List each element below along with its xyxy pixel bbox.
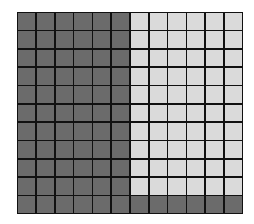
shaded-cell <box>112 160 129 177</box>
unshaded-cell <box>187 178 204 195</box>
shaded-cell <box>225 196 242 213</box>
unshaded-cell <box>150 31 167 48</box>
unshaded-cell <box>187 50 204 67</box>
unshaded-cell <box>131 178 148 195</box>
unshaded-cell <box>225 68 242 85</box>
unshaded-cell <box>131 160 148 177</box>
shaded-cell <box>56 31 73 48</box>
unshaded-cell <box>168 105 185 122</box>
shaded-cell <box>93 160 110 177</box>
shaded-cell <box>18 160 35 177</box>
unshaded-cell <box>187 141 204 158</box>
shaded-cell <box>93 86 110 103</box>
shaded-cell <box>112 196 129 213</box>
unshaded-cell <box>131 68 148 85</box>
shaded-grid <box>17 12 243 214</box>
shaded-cell <box>56 86 73 103</box>
shaded-cell <box>18 13 35 30</box>
unshaded-cell <box>131 123 148 140</box>
shaded-cell <box>150 196 167 213</box>
shaded-cell <box>112 105 129 122</box>
unshaded-cell <box>206 68 223 85</box>
shaded-cell <box>18 50 35 67</box>
unshaded-cell <box>225 160 242 177</box>
shaded-cell <box>74 105 91 122</box>
unshaded-cell <box>131 141 148 158</box>
shaded-cell <box>18 105 35 122</box>
unshaded-cell <box>206 178 223 195</box>
unshaded-cell <box>168 86 185 103</box>
unshaded-cell <box>168 68 185 85</box>
shaded-cell <box>37 68 54 85</box>
unshaded-cell <box>168 50 185 67</box>
shaded-cell <box>131 196 148 213</box>
shaded-cell <box>37 86 54 103</box>
unshaded-cell <box>150 123 167 140</box>
shaded-cell <box>18 141 35 158</box>
unshaded-cell <box>150 178 167 195</box>
unshaded-cell <box>150 105 167 122</box>
unshaded-cell <box>168 31 185 48</box>
unshaded-cell <box>150 141 167 158</box>
unshaded-cell <box>168 13 185 30</box>
shaded-cell <box>168 196 185 213</box>
shaded-cell <box>18 123 35 140</box>
unshaded-cell <box>206 160 223 177</box>
shaded-cell <box>56 50 73 67</box>
unshaded-cell <box>206 13 223 30</box>
shaded-cell <box>37 141 54 158</box>
shaded-cell <box>74 50 91 67</box>
shaded-cell <box>112 68 129 85</box>
unshaded-cell <box>150 13 167 30</box>
shaded-cell <box>18 196 35 213</box>
shaded-cell <box>56 141 73 158</box>
shaded-cell <box>112 50 129 67</box>
shaded-cell <box>112 31 129 48</box>
shaded-cell <box>18 86 35 103</box>
unshaded-cell <box>206 86 223 103</box>
shaded-cell <box>56 13 73 30</box>
shaded-cell <box>74 31 91 48</box>
unshaded-cell <box>206 31 223 48</box>
shaded-cell <box>93 50 110 67</box>
shaded-cell <box>37 178 54 195</box>
shaded-cell <box>112 13 129 30</box>
shaded-cell <box>93 13 110 30</box>
unshaded-cell <box>168 178 185 195</box>
shaded-cell <box>56 178 73 195</box>
unshaded-cell <box>150 160 167 177</box>
unshaded-cell <box>187 68 204 85</box>
shaded-cell <box>74 160 91 177</box>
shaded-cell <box>112 141 129 158</box>
shaded-cell <box>74 86 91 103</box>
shaded-cell <box>93 31 110 48</box>
shaded-cell <box>37 31 54 48</box>
shaded-cell <box>37 160 54 177</box>
shaded-cell <box>37 13 54 30</box>
shaded-cell <box>74 196 91 213</box>
shaded-cell <box>37 123 54 140</box>
unshaded-cell <box>206 141 223 158</box>
shaded-cell <box>18 31 35 48</box>
shaded-cell <box>93 196 110 213</box>
unshaded-cell <box>131 13 148 30</box>
shaded-cell <box>74 178 91 195</box>
unshaded-cell <box>187 86 204 103</box>
shaded-cell <box>187 196 204 213</box>
shaded-cell <box>56 160 73 177</box>
shaded-cell <box>74 68 91 85</box>
shaded-cell <box>112 86 129 103</box>
unshaded-cell <box>168 141 185 158</box>
unshaded-cell <box>187 13 204 30</box>
unshaded-cell <box>225 50 242 67</box>
unshaded-cell <box>168 160 185 177</box>
unshaded-cell <box>187 31 204 48</box>
unshaded-cell <box>206 123 223 140</box>
shaded-cell <box>93 68 110 85</box>
unshaded-cell <box>131 86 148 103</box>
unshaded-cell <box>150 68 167 85</box>
unshaded-cell <box>206 50 223 67</box>
shaded-cell <box>37 196 54 213</box>
unshaded-cell <box>225 31 242 48</box>
unshaded-cell <box>187 123 204 140</box>
